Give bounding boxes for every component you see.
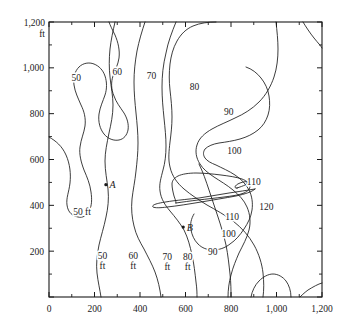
- contour-label: 60: [113, 67, 123, 77]
- contour-label: 50 ft: [73, 207, 91, 217]
- x-axis-tick-label: 0: [47, 304, 52, 314]
- contour-label: 90: [224, 107, 234, 117]
- x-axis-tick-label: 200: [87, 304, 102, 314]
- contour-plot-svg: AB 5050606070708080909010010011011012012…: [0, 0, 346, 333]
- x-axis-tick-label: 1,000: [266, 304, 288, 314]
- contour-label: ft: [185, 262, 191, 272]
- contour-bottom-right-lobe: [251, 274, 291, 297]
- contour-80-right-lower: [300, 283, 322, 297]
- y-axis-labels: 2004006008001,000: [23, 63, 45, 256]
- contour-50-left: [49, 22, 128, 217]
- contour-80-right: [303, 22, 322, 48]
- contour-label: 70: [163, 252, 173, 262]
- contour-label: 100: [222, 229, 237, 239]
- point-label-b: B: [187, 222, 193, 233]
- point-marker-b: [182, 226, 185, 229]
- x-axis-tick-label: 800: [224, 304, 239, 314]
- contour-100: [204, 67, 270, 250]
- x-axis-labels: 02004006008001,0001,200: [47, 304, 333, 314]
- contour-label: 90: [208, 247, 218, 257]
- point-label-a: A: [108, 179, 116, 190]
- contour-label: 120: [259, 202, 274, 212]
- contour-label: 50: [98, 251, 108, 261]
- contour-120: [235, 182, 247, 188]
- x-axis-tick-label: 600: [178, 304, 193, 314]
- y-axis-top-label: 1,200: [24, 18, 46, 28]
- y-axis-tick-label: 1,000: [23, 63, 45, 73]
- contour-label: 100: [227, 146, 242, 156]
- contour-label: 110: [247, 177, 261, 187]
- marked-points: AB: [104, 179, 193, 232]
- contour-label: ft: [130, 261, 136, 271]
- point-marker-a: [104, 183, 107, 186]
- contour-110-sliver: [153, 189, 255, 208]
- contour-label: 50: [72, 73, 82, 83]
- contour-label: ft: [100, 261, 106, 271]
- contour-plot-figure: AB 5050606070708080909010010011011012012…: [0, 0, 346, 333]
- contour-label: ft: [164, 262, 170, 272]
- y-axis-tick-label: 400: [30, 201, 45, 211]
- contour-label: 80: [183, 252, 193, 262]
- contour-label: 60: [128, 251, 138, 261]
- y-axis-tick-label: 200: [30, 247, 45, 257]
- x-axis-tick-label: 400: [133, 304, 148, 314]
- contour-100-lowerarc: [191, 214, 213, 250]
- x-axis-tick-label: 1,200: [311, 304, 333, 314]
- contour-label: 70: [147, 71, 157, 81]
- y-axis-tick-label: 600: [30, 155, 45, 165]
- contour-label: 80: [190, 82, 200, 92]
- y-axis-tick-label: 800: [30, 109, 45, 119]
- contour-label: 110: [225, 212, 239, 222]
- y-axis-unit-label: ft: [39, 29, 45, 39]
- contour-labels: 5050606070708080909010010011011012012011…: [72, 67, 274, 272]
